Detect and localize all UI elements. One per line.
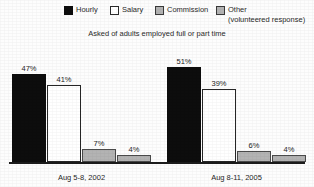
bar-value-label: 39% [202,79,236,88]
legend-swatch-gray-icon [155,6,164,15]
bar-salary [47,85,81,162]
bar-value-label: 41% [47,75,81,84]
legend-label-hourly: Hourly [76,5,98,15]
bar-value-label: 47% [12,64,46,73]
bar-value-label: 4% [117,145,151,154]
legend-label-salary: Salary [122,5,143,15]
chart-subtitle: Asked of adults employed full or part ti… [0,29,314,38]
bar-value-label: 6% [237,141,271,150]
bar-hourly [167,67,201,162]
legend-item-hourly: Hourly [64,5,98,15]
legend-label-commission: Commission [167,5,208,15]
legend-swatch-white-icon [110,6,119,15]
bar-other [117,155,151,162]
legend-item-salary: Salary [110,5,143,15]
legend-item-other: Other (volunteered response) [216,5,305,24]
chart-legend: Hourly Salary Commission Other (voluntee… [0,2,314,24]
bar-commission [237,151,271,162]
bar-value-label: 4% [272,145,306,154]
bar-commission [82,149,116,162]
bar-hourly [12,74,46,162]
x-axis-group-label: Aug 5-8, 2002 [12,173,151,182]
bar-value-label: 51% [167,57,201,66]
x-axis-group-label: Aug 8-11, 2005 [167,173,306,182]
bar-other [272,155,306,162]
legend-sublabel-other: (volunteered response) [228,15,305,25]
x-axis-line [9,162,305,164]
legend-item-commission: Commission [155,5,208,15]
legend-swatch-gray-icon [216,6,225,15]
bar-value-label: 7% [82,139,116,148]
legend-label-other: Other [228,5,305,15]
bar-salary [202,89,236,162]
chart-figure: Hourly Salary Commission Other (voluntee… [0,0,314,187]
chart-plot-area: 47%41%7%4%Aug 5-8, 200251%39%6%4%Aug 8-1… [0,40,314,187]
legend-swatch-black-icon [64,6,73,15]
